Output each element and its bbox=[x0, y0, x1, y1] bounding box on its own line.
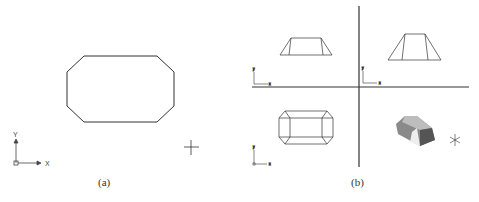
panel-a: Y X bbox=[13, 56, 199, 167]
ucs-icon bbox=[14, 139, 41, 165]
ucs-y-label-tl: y bbox=[253, 67, 255, 71]
caption-b: (b) bbox=[351, 176, 364, 188]
ucs-icon-tr bbox=[363, 71, 377, 83]
ucs-x-label-tr: x bbox=[379, 81, 381, 85]
octagon-shape bbox=[67, 56, 174, 122]
figure-canvas: Y X y x y x bbox=[0, 0, 479, 202]
ucs-y-label: Y bbox=[13, 131, 18, 138]
ucs-y-label-tr: y bbox=[362, 66, 364, 70]
ucs-icon-bl bbox=[253, 150, 267, 165]
asterisk-icon bbox=[450, 134, 460, 146]
ucs-icon-tl bbox=[254, 72, 268, 84]
shaded-solid bbox=[396, 116, 435, 146]
top-view-octagon bbox=[279, 111, 333, 144]
caption-a: (a) bbox=[98, 176, 110, 188]
ucs-x-label-bl: x bbox=[269, 162, 271, 166]
ucs-y-label-bl: y bbox=[253, 145, 255, 149]
front-view-trapezoid bbox=[280, 38, 332, 55]
panel-b: y x y x bbox=[252, 6, 469, 167]
ucs-x-label-tl: x bbox=[269, 82, 271, 86]
side-view-trapezoid bbox=[388, 34, 441, 60]
ucs-x-label: X bbox=[45, 160, 50, 167]
crosshair-icon bbox=[184, 140, 199, 155]
